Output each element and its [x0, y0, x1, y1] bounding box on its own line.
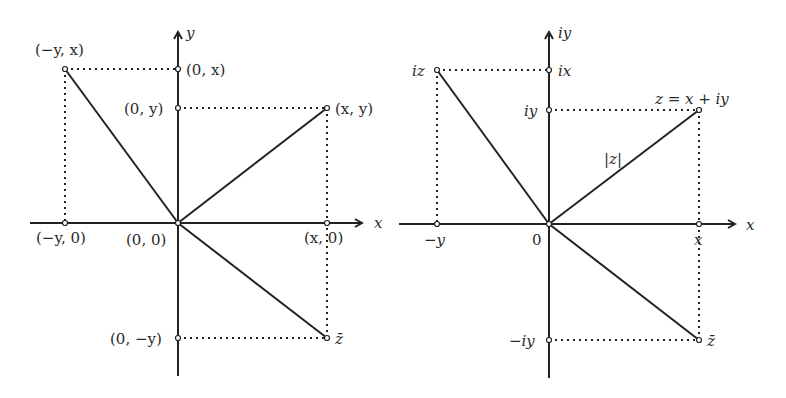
y-axis-label: y	[185, 24, 195, 42]
label-iz: iz	[412, 62, 425, 80]
point-iz	[435, 68, 440, 73]
label-x-zero: (x, 0)	[304, 229, 343, 247]
vector-iz	[437, 70, 549, 224]
label-zero-neg-y: (0, −y)	[110, 330, 162, 348]
point-origin	[547, 222, 552, 227]
point-conjugate	[697, 338, 702, 343]
label-origin: (0, 0)	[126, 231, 166, 249]
label-x-y: (x, y)	[335, 100, 373, 118]
complex-plane-diagrams: x y (−y, x) (0, x) (0, y) (x, y) (−y, 0)…	[0, 0, 786, 398]
label-neg-y-x: (−y, x)	[35, 41, 84, 59]
point-iy	[547, 108, 552, 113]
label-z: z = x + iy	[654, 90, 729, 108]
vector-rotated	[65, 69, 178, 223]
point-ix	[547, 68, 552, 73]
point-zero-x	[176, 67, 181, 72]
point-zero-neg-y	[176, 336, 181, 341]
label-zero-y: (0, y)	[124, 100, 163, 118]
point-zero-y	[176, 106, 181, 111]
point-z	[697, 108, 702, 113]
right-diagram: x iy iz ix iy z = x + iy |z| −y 0 x −iy …	[399, 24, 755, 378]
vector-z	[178, 108, 327, 223]
point-neg-y	[435, 222, 440, 227]
point-origin	[176, 221, 181, 226]
point-neg-iy	[547, 338, 552, 343]
point-neg-y-zero	[63, 221, 68, 226]
label-origin: 0	[532, 231, 542, 249]
x-axis-label: x	[746, 216, 755, 234]
label-neg-y: −y	[424, 231, 446, 249]
imaginary-axis-label: iy	[558, 24, 572, 42]
label-neg-y-zero: (−y, 0)	[36, 229, 86, 247]
label-iy: iy	[524, 102, 538, 120]
label-x: x	[694, 231, 703, 249]
vector-z	[549, 110, 699, 224]
label-conjugate: z̄	[334, 330, 343, 348]
point-x	[697, 222, 702, 227]
point-neg-y-x	[63, 67, 68, 72]
point-x-y	[325, 106, 330, 111]
point-conjugate	[325, 336, 330, 341]
vector-conjugate	[549, 224, 699, 340]
label-ix: ix	[558, 62, 572, 80]
point-x-zero	[325, 221, 330, 226]
label-neg-iy: −iy	[509, 332, 535, 350]
label-zero-x: (0, x)	[186, 61, 225, 79]
left-diagram: x y (−y, x) (0, x) (0, y) (x, y) (−y, 0)…	[30, 24, 383, 376]
label-modulus: |z|	[604, 150, 622, 168]
x-axis-label: x	[374, 214, 383, 232]
label-conjugate: z̄	[706, 332, 715, 350]
